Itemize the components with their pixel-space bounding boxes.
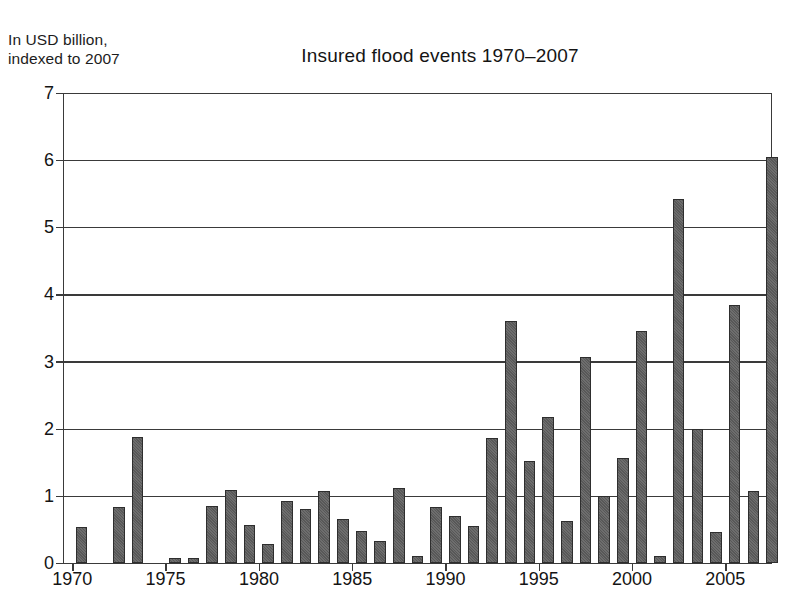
y-tick-label: 5 (14, 217, 54, 238)
bar (766, 157, 778, 563)
bar (337, 519, 349, 563)
x-tick-label: 1975 (146, 569, 186, 590)
bar (486, 438, 498, 563)
y-tick-label: 3 (14, 351, 54, 372)
bar (561, 521, 573, 563)
x-tick-label: 2000 (612, 569, 652, 590)
x-axis-tick-labels: 19701975198019851990199520002005 (63, 569, 772, 599)
bar (580, 357, 592, 563)
x-tick-label: 2005 (705, 569, 745, 590)
bar (374, 541, 386, 563)
bar (206, 506, 218, 563)
bar (505, 321, 517, 563)
x-tick-label: 1995 (519, 569, 559, 590)
bar (468, 526, 480, 563)
chart-title: Insured flood events 1970–2007 (240, 45, 640, 67)
bar (617, 458, 629, 563)
bar (748, 491, 760, 563)
bar (710, 532, 722, 563)
x-tick-label: 1985 (332, 569, 372, 590)
plot-gridlines (63, 93, 772, 563)
x-tick-label: 1980 (239, 569, 279, 590)
y-tick-label: 7 (14, 83, 54, 104)
x-tick-label: 1990 (425, 569, 465, 590)
bar (281, 501, 293, 563)
x-tick-label: 1970 (52, 569, 92, 590)
y-axis-tick-labels: 01234567 (8, 93, 54, 563)
bar (430, 507, 442, 563)
bar (654, 556, 666, 563)
bar (169, 558, 181, 563)
bar (113, 507, 125, 563)
bar (598, 496, 610, 563)
bar (692, 429, 704, 563)
bar (636, 331, 648, 563)
bar (300, 509, 312, 563)
bar (225, 490, 237, 563)
bar (132, 437, 144, 563)
bar (524, 461, 536, 563)
y-axis-unit-caption: In USD billion, indexed to 2007 (8, 30, 120, 68)
bar (188, 558, 200, 563)
bar (673, 199, 685, 563)
y-tick-label: 0 (14, 553, 54, 574)
bar (356, 531, 368, 563)
y-tick-label: 2 (14, 418, 54, 439)
bar (412, 556, 424, 563)
y-tick-label: 1 (14, 485, 54, 506)
bar (318, 491, 330, 564)
bar (76, 527, 88, 563)
bar (262, 544, 274, 563)
plot-area (63, 93, 772, 563)
bar (542, 417, 554, 563)
y-tick-label: 4 (14, 284, 54, 305)
y-tick-label: 6 (14, 150, 54, 171)
bar (449, 516, 461, 563)
bar (393, 488, 405, 563)
bar (729, 305, 741, 563)
chart-figure: In USD billion, indexed to 2007 Insured … (0, 0, 797, 615)
bar (244, 525, 256, 563)
